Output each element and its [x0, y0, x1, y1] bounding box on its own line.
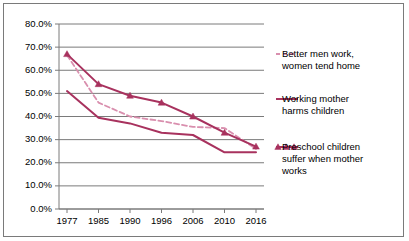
y-axis-tick-label: 20.0% — [25, 156, 52, 167]
y-axis-tick-label: 30.0% — [25, 133, 52, 144]
legend-label: works — [281, 165, 307, 176]
x-axis-tick-label: 2010 — [214, 215, 235, 226]
legend-label: Preschool children — [282, 141, 360, 152]
x-axis-tick-label: 1977 — [56, 215, 77, 226]
x-axis-tick-label: 1990 — [119, 215, 140, 226]
y-axis-tick-label: 60.0% — [25, 64, 52, 75]
y-axis-tick-label: 50.0% — [25, 87, 52, 98]
x-axis-tick-label: 1985 — [88, 215, 109, 226]
x-axis-tick-label: 2006 — [182, 215, 203, 226]
legend-label: harms children — [282, 105, 344, 116]
legend-label: women tend home — [281, 60, 360, 71]
chart-frame: 0.0%10.0%20.0%30.0%40.0%50.0%60.0%70.0%8… — [3, 3, 404, 237]
legend-label: suffer when mother — [282, 153, 363, 164]
x-axis-tick-label: 1996 — [151, 215, 172, 226]
legend-label: Better men work, — [282, 48, 354, 59]
gridlines — [59, 24, 264, 209]
y-axis-tick-label: 40.0% — [25, 110, 52, 121]
x-axis-ticks — [67, 209, 256, 213]
y-axis-tick-label: 10.0% — [25, 179, 52, 190]
series-marker — [64, 51, 71, 57]
y-axis-tick-label: 80.0% — [25, 18, 52, 29]
x-axis-labels: 1977198519901996200620102016 — [56, 215, 266, 226]
legend-label: Working mother — [282, 93, 349, 104]
data-series-layer — [64, 51, 260, 153]
y-axis-tick-label: 0.0% — [30, 203, 52, 214]
x-axis-tick-label: 2016 — [245, 215, 266, 226]
y-axis-tick-label: 70.0% — [25, 41, 52, 52]
y-axis-labels: 0.0%10.0%20.0%30.0%40.0%50.0%60.0%70.0%8… — [25, 18, 52, 214]
chart-legend: Better men work,women tend homeWorking m… — [275, 48, 363, 176]
line-chart: 0.0%10.0%20.0%30.0%40.0%50.0%60.0%70.0%8… — [4, 4, 403, 236]
y-axis-ticks — [55, 24, 59, 209]
